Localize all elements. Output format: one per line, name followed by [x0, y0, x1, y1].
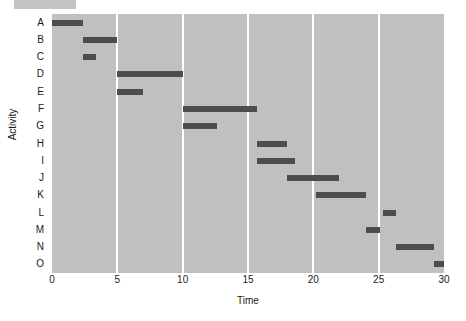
gantt-bar-N: [396, 244, 434, 250]
gridline-x-10: [182, 14, 184, 273]
y-tick-label-D: D: [37, 69, 44, 79]
gantt-bar-H: [257, 141, 287, 147]
gantt-bar-G: [183, 123, 217, 129]
gridline-x-5: [116, 14, 118, 273]
y-tick-label-O: O: [36, 259, 44, 269]
gantt-bar-O: [434, 261, 444, 267]
y-tick-label-F: F: [38, 104, 44, 114]
x-tick-label-10: 10: [177, 275, 188, 285]
gantt-bar-J: [287, 175, 339, 181]
gridline-x-15: [247, 14, 249, 273]
x-tick-label-30: 30: [438, 275, 449, 285]
gantt-bar-C: [83, 54, 96, 60]
y-tick-label-H: H: [37, 139, 44, 149]
x-tick-label-20: 20: [308, 275, 319, 285]
plot-area: [52, 14, 444, 273]
gantt-bar-D: [117, 71, 182, 77]
x-tick-label-15: 15: [242, 275, 253, 285]
y-tick-label-B: B: [37, 35, 44, 45]
gantt-bar-M: [366, 227, 380, 233]
y-tick-label-C: C: [37, 52, 44, 62]
gantt-bar-E: [117, 89, 143, 95]
x-axis-tick-labels: 051015202530: [52, 275, 444, 291]
gantt-bar-K: [316, 192, 366, 198]
y-tick-label-J: J: [39, 173, 44, 183]
gantt-bar-L: [383, 210, 396, 216]
y-tick-label-K: K: [37, 190, 44, 200]
gridline-x-25: [378, 14, 380, 273]
x-tick-label-5: 5: [115, 275, 121, 285]
gantt-bar-A: [52, 20, 83, 26]
y-tick-label-L: L: [38, 208, 44, 218]
gantt-bar-F: [183, 106, 257, 112]
y-tick-label-M: M: [36, 225, 44, 235]
y-tick-label-N: N: [37, 242, 44, 252]
gridline-x-20: [312, 14, 314, 273]
header-strip: [14, 0, 76, 9]
y-tick-label-G: G: [36, 121, 44, 131]
gantt-bar-B: [83, 37, 117, 43]
x-tick-label-0: 0: [49, 275, 55, 285]
gantt-bar-I: [257, 158, 295, 164]
y-axis-title: Activity: [7, 85, 18, 165]
x-axis-title: Time: [52, 295, 444, 306]
chart-root: ABCDEFGHIJKLMNO Activity 051015202530 Ti…: [0, 0, 466, 321]
y-tick-label-E: E: [37, 87, 44, 97]
y-tick-label-A: A: [37, 18, 44, 28]
x-tick-label-25: 25: [373, 275, 384, 285]
y-tick-label-I: I: [41, 156, 44, 166]
